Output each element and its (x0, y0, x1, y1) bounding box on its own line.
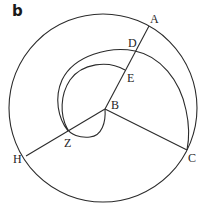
line-BA (105, 26, 149, 109)
panel-label: b (12, 2, 23, 20)
label-A: A (150, 12, 159, 26)
label-B: B (111, 98, 119, 112)
label-Z: Z (64, 136, 71, 150)
label-D: D (128, 36, 137, 50)
spiral-curve (58, 50, 189, 150)
outer-circle (9, 14, 197, 202)
label-C: C (188, 151, 196, 165)
label-H: H (13, 152, 22, 166)
label-E: E (127, 71, 134, 85)
spiral-diagram: b A D E B Z H C (0, 0, 203, 206)
diagram-canvas: A D E B Z H C (0, 0, 203, 206)
line-BC (105, 109, 187, 150)
